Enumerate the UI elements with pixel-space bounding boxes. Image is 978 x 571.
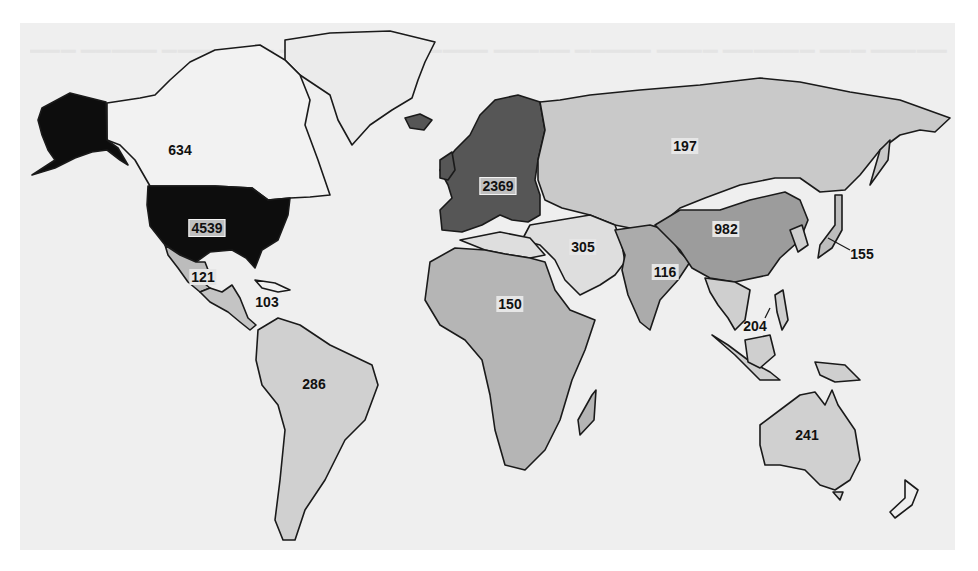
label-central-america: 103: [253, 294, 280, 310]
region-tasmania: [833, 492, 843, 500]
se-asia-leader-line: [765, 308, 770, 318]
label-middle-east: 305: [569, 239, 596, 255]
label-china: 982: [712, 221, 739, 237]
region-new-zealand: [890, 480, 918, 518]
label-africa: 150: [496, 296, 523, 312]
label-russia: 197: [671, 138, 698, 154]
region-madagascar: [578, 390, 596, 435]
label-south-america: 286: [300, 376, 327, 392]
region-korea: [790, 225, 808, 252]
region-south-america: [256, 318, 378, 540]
region-new-guinea: [815, 362, 860, 382]
label-europe: 2369: [479, 177, 516, 195]
region-europe: [440, 95, 545, 232]
region-caribbean: [255, 280, 290, 292]
world-map: [0, 0, 978, 571]
label-usa: 4539: [188, 219, 225, 237]
region-japan: [818, 195, 842, 258]
region-iceland: [405, 114, 432, 130]
region-borneo: [745, 335, 775, 368]
label-australia: 241: [793, 427, 820, 443]
region-central-america: [200, 285, 256, 330]
region-philippines: [775, 290, 788, 330]
scanned-page: ▁▁▁ ▁▁▁▁▁ ▁▁▁▁ ▁▁▁ ▁▁▁▁▁▁ ▁▁▁ ▁▁▁▁ ▁▁▁▁▁…: [0, 0, 978, 571]
label-south-asia: 116: [652, 264, 679, 280]
label-southeast-asia: 204: [741, 318, 768, 334]
label-canada: 634: [166, 142, 193, 158]
label-mexico: 121: [189, 269, 216, 285]
label-japan: 155: [848, 246, 875, 262]
